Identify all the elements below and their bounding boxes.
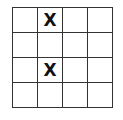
cell-r0-c1[interactable]: X — [38, 8, 62, 32]
game-board: X X — [12, 7, 113, 108]
cell-r0-c2[interactable] — [63, 8, 87, 32]
cell-r0-c3[interactable] — [88, 8, 112, 32]
cell-r3-c1[interactable] — [38, 83, 62, 107]
cell-r0-c0[interactable] — [13, 8, 37, 32]
cell-r2-c1[interactable]: X — [38, 58, 62, 82]
cell-r1-c2[interactable] — [63, 33, 87, 57]
cell-r1-c1[interactable] — [38, 33, 62, 57]
cell-r1-c0[interactable] — [13, 33, 37, 57]
cell-r3-c2[interactable] — [63, 83, 87, 107]
cell-r3-c0[interactable] — [13, 83, 37, 107]
cell-r2-c3[interactable] — [88, 58, 112, 82]
cell-r3-c3[interactable] — [88, 83, 112, 107]
cell-r2-c0[interactable] — [13, 58, 37, 82]
cell-r2-c2[interactable] — [63, 58, 87, 82]
cell-r1-c3[interactable] — [88, 33, 112, 57]
